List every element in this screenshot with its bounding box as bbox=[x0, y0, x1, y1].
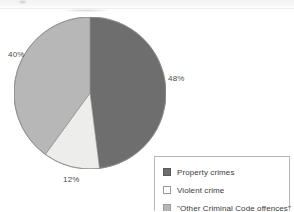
legend-swatch-property-crimes bbox=[163, 168, 171, 176]
legend-swatch-violent-crime bbox=[163, 186, 171, 194]
legend-label-violent-crime: Violent crime bbox=[177, 186, 224, 195]
pie-chart-figure: 48% 40% 12% Property crimes Violent crim… bbox=[0, 0, 294, 211]
legend-item-violent-crime: Violent crime bbox=[163, 181, 289, 199]
chart-legend: Property crimes Violent crime "Other Cri… bbox=[154, 156, 290, 211]
legend-item-other-criminal-code-offences: "Other Criminal Code offences" bbox=[163, 199, 289, 211]
pie-slice-property-crimes bbox=[90, 17, 166, 168]
pie-value-label-violent-crime: 12% bbox=[63, 175, 80, 184]
scan-artifact-line bbox=[0, 8, 294, 9]
legend-swatch-other-criminal-code-offences bbox=[163, 204, 171, 211]
pie-value-label-property-crimes: 48% bbox=[168, 74, 185, 83]
scan-artifact-dot bbox=[18, 0, 27, 4]
legend-item-property-crimes: Property crimes bbox=[163, 163, 289, 181]
pie-chart bbox=[14, 17, 166, 169]
scan-artifact-smudge bbox=[60, 9, 112, 12]
pie-value-label-other-criminal-code-offences: 40% bbox=[8, 50, 25, 59]
legend-label-other-criminal-code-offences: "Other Criminal Code offences" bbox=[177, 204, 291, 212]
legend-label-property-crimes: Property crimes bbox=[177, 168, 235, 177]
pie-svg bbox=[14, 17, 166, 169]
